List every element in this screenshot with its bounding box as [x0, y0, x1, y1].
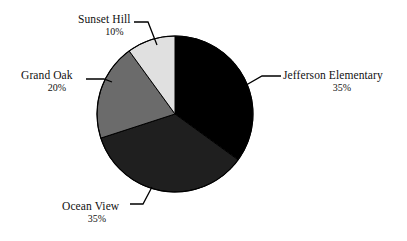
pie-chart: Jefferson Elementary 35% Ocean View 35% … [0, 0, 407, 241]
pie-label-value: 10% [78, 26, 151, 37]
leader-line-ocean-view [130, 187, 152, 204]
pie-label-name: Ocean View [62, 200, 132, 213]
pie-label-grand-oak: Grand Oak 20% [21, 69, 93, 93]
pie-label-name: Sunset Hill [78, 13, 151, 26]
pie-label-jefferson-elementary: Jefferson Elementary 35% [283, 69, 401, 93]
pie-label-value: 20% [21, 82, 93, 93]
pie-label-ocean-view: Ocean View 35% [62, 200, 132, 224]
pie-label-sunset-hill: Sunset Hill 10% [78, 13, 151, 37]
pie-label-name: Grand Oak [21, 69, 93, 82]
pie-label-name: Jefferson Elementary [283, 69, 401, 82]
pie-slice-group [97, 36, 253, 192]
pie-label-value: 35% [283, 82, 401, 93]
pie-label-value: 35% [62, 213, 132, 224]
